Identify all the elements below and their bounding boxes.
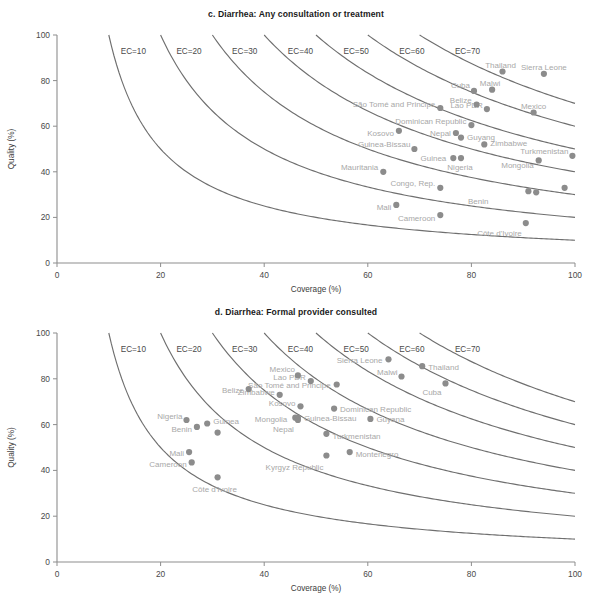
data-point[interactable] <box>393 202 399 208</box>
data-point-label: Malwi <box>480 79 501 88</box>
data-point[interactable] <box>489 87 495 93</box>
data-point[interactable] <box>347 449 353 455</box>
axes <box>57 333 575 562</box>
data-point[interactable] <box>468 122 474 128</box>
ec-curve-label: EC=30 <box>232 345 258 354</box>
x-tick-label: 20 <box>156 569 166 579</box>
data-point[interactable] <box>385 356 391 362</box>
data-point[interactable] <box>194 424 200 430</box>
data-point[interactable] <box>569 153 575 159</box>
data-point[interactable] <box>437 105 443 111</box>
y-tick-label: 40 <box>41 167 51 177</box>
x-tick-label: 0 <box>55 270 60 280</box>
y-tick-label: 100 <box>36 30 50 40</box>
data-point-label: Dominican Republic <box>340 405 411 414</box>
data-point[interactable] <box>450 155 456 161</box>
data-point-label: Guyana <box>376 415 405 424</box>
data-point[interactable] <box>367 416 373 422</box>
data-point[interactable] <box>484 106 490 112</box>
data-point[interactable] <box>189 459 195 465</box>
data-point-label: Côte d'Ivoire <box>192 485 237 494</box>
data-point[interactable] <box>186 449 192 455</box>
ec-curve-label: EC=10 <box>121 345 147 354</box>
data-point-label: Turkmenistan <box>332 432 380 441</box>
data-point-label: Cameroon <box>398 214 435 223</box>
data-point-label: Zimbabwe <box>238 388 275 397</box>
x-tick-label: 40 <box>260 270 270 280</box>
data-point[interactable] <box>458 135 464 141</box>
ec-curve-label: EC=10 <box>121 47 147 56</box>
data-point[interactable] <box>458 155 464 161</box>
data-point-label: Nigeria <box>447 163 473 172</box>
ec-curve-label: EC=70 <box>455 47 481 56</box>
chart-panel-d: d. Diarrhea: Formal provider consulted E… <box>0 300 592 598</box>
data-point[interactable] <box>531 109 537 115</box>
data-point[interactable] <box>525 188 531 194</box>
ec-curve-label: EC=40 <box>288 47 314 56</box>
y-tick-label: 20 <box>41 511 51 521</box>
figure-page: c. Diarrhea: Any consultation or treatme… <box>0 0 592 598</box>
data-point-label: Kosovo <box>269 399 296 408</box>
y-axis-title: Quality (%) <box>7 427 16 468</box>
data-point[interactable] <box>295 417 301 423</box>
data-point[interactable] <box>437 185 443 191</box>
data-point[interactable] <box>533 189 539 195</box>
ec-curve-label: EC=50 <box>344 47 370 56</box>
data-point[interactable] <box>295 372 301 378</box>
x-tick-label: 20 <box>156 270 166 280</box>
data-point[interactable] <box>474 101 480 107</box>
data-point[interactable] <box>204 420 210 426</box>
data-point-label: Montenegro <box>356 450 399 459</box>
y-axis-title: Quality (%) <box>7 128 16 169</box>
data-point[interactable] <box>419 363 425 369</box>
data-point[interactable] <box>437 212 443 218</box>
y-tick-label: 80 <box>41 76 51 86</box>
data-point-label: Kosovo <box>367 129 394 138</box>
data-point-label: Sierra Leone <box>337 356 383 365</box>
y-tick-label: 80 <box>41 374 51 384</box>
data-point[interactable] <box>523 220 529 226</box>
data-point-label: Mali <box>169 449 184 458</box>
data-point[interactable] <box>334 381 340 387</box>
x-tick-label: 100 <box>568 569 582 579</box>
data-point[interactable] <box>246 386 252 392</box>
chart-panel-c: c. Diarrhea: Any consultation or treatme… <box>0 0 592 300</box>
data-point[interactable] <box>323 431 329 437</box>
data-point[interactable] <box>396 128 402 134</box>
data-point[interactable] <box>499 68 505 74</box>
y-tick-label: 20 <box>41 212 51 222</box>
data-point[interactable] <box>453 130 459 136</box>
data-point[interactable] <box>536 157 542 163</box>
ec-curve-label: EC=20 <box>176 47 202 56</box>
y-tick-label: 0 <box>45 557 50 567</box>
data-point[interactable] <box>331 406 337 412</box>
data-point[interactable] <box>398 373 404 379</box>
data-point[interactable] <box>562 185 568 191</box>
data-point-label: São Tomé and Principe <box>353 100 436 109</box>
data-point[interactable] <box>541 71 547 77</box>
data-point-label: Cameroon <box>149 460 186 469</box>
data-point-label: Mauritania <box>341 163 379 172</box>
data-point[interactable] <box>411 146 417 152</box>
data-point-label: Nepal <box>430 129 451 138</box>
y-tick-label: 60 <box>41 121 51 131</box>
x-tick-label: 60 <box>363 270 373 280</box>
data-point[interactable] <box>471 88 477 94</box>
data-point[interactable] <box>183 417 189 423</box>
data-point-label: Mexico <box>521 102 547 111</box>
data-point-label: Guinea <box>213 417 239 426</box>
data-point[interactable] <box>442 380 448 386</box>
data-point[interactable] <box>380 169 386 175</box>
data-point[interactable] <box>215 430 221 436</box>
data-point[interactable] <box>215 474 221 480</box>
data-point[interactable] <box>297 403 303 409</box>
x-axis-title: Coverage (%) <box>291 285 342 294</box>
data-point[interactable] <box>481 141 487 147</box>
data-point[interactable] <box>277 392 283 398</box>
data-point[interactable] <box>323 452 329 458</box>
data-point[interactable] <box>308 378 314 384</box>
ec-curve-label: EC=70 <box>455 345 481 354</box>
data-point-label: Benin <box>468 197 488 206</box>
data-point-label: Guinea-Bissau <box>358 140 410 149</box>
data-point-label: Thailand <box>428 363 459 372</box>
